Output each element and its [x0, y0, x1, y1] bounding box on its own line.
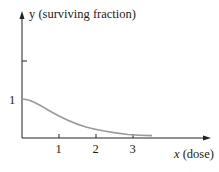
- x-tick-label-3: 3: [130, 142, 136, 156]
- x-axis-label: x (dose): [173, 147, 214, 161]
- chart: y (surviving fraction) 1 1 2 3 x (dose): [0, 0, 219, 172]
- x-axis-arrow-icon: [203, 136, 211, 141]
- y-axis-label: y (surviving fraction): [29, 7, 136, 21]
- x-tick-label-2: 2: [93, 142, 99, 156]
- y-tick-label-1: 1: [9, 93, 15, 107]
- x-axis-label-rest: (dose): [180, 147, 214, 161]
- y-axis-arrow-icon: [20, 11, 25, 19]
- survival-curve: [22, 99, 152, 136]
- x-tick-label-1: 1: [56, 142, 62, 156]
